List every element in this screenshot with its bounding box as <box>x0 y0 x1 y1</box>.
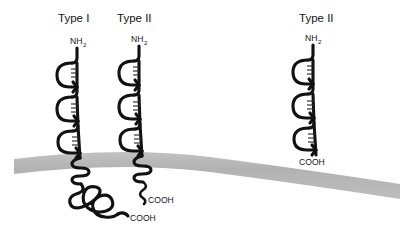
protein-middle-n-terminus-label: NH <box>131 34 143 44</box>
protein-middle-n-terminus-subscript: 2 <box>144 39 148 46</box>
protein-middle-cytoplasmic-tail <box>140 182 146 204</box>
protein-middle-type-ii: Type II NH 2 COOH <box>117 12 174 205</box>
protein-middle-c-terminus-label: COOH <box>148 195 174 205</box>
protein-left-type-label: Type I <box>58 12 89 24</box>
protein-right-c-terminus-label: COOH <box>299 157 325 167</box>
protein-middle-type-label: Type II <box>117 12 152 24</box>
protein-left-n-terminus-subscript: 2 <box>83 41 87 48</box>
membrane-protein-diagram: Type I NH 2 <box>0 0 403 237</box>
protein-right-type-label: Type II <box>299 12 334 24</box>
protein-right-type-ii: Type II NH 2 COOH <box>293 12 334 167</box>
membrane-bilayer <box>14 152 400 199</box>
protein-left-n-terminus-label: NH <box>70 36 82 46</box>
protein-left-c-terminus-label: COOH <box>130 213 156 223</box>
protein-left-cytoplasmic-domain <box>70 184 128 217</box>
protein-right-n-terminus-label: NH <box>305 33 317 43</box>
protein-right-n-terminus-subscript: 2 <box>318 38 322 45</box>
